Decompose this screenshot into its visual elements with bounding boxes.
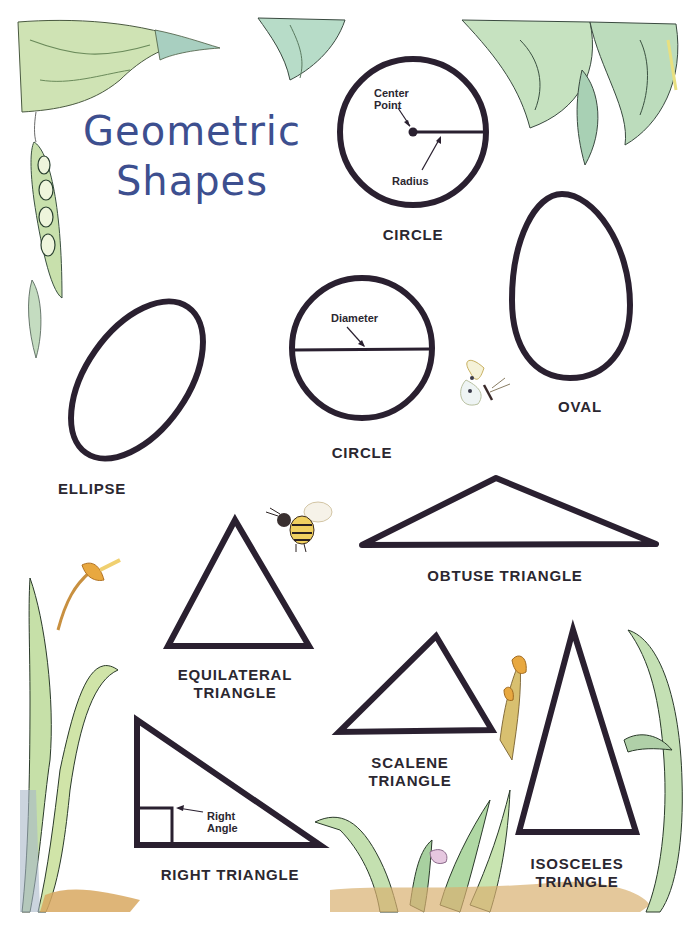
scalene-label-line-1: SCALENE bbox=[355, 754, 465, 772]
oval-label: OVAL bbox=[540, 398, 620, 416]
bee-icon bbox=[266, 502, 332, 552]
center-point-line-2: Point bbox=[374, 99, 409, 111]
equilateral-label-line-1: EQUILATERAL bbox=[160, 666, 310, 684]
diameter-annotation: Diameter bbox=[331, 312, 378, 324]
grass-right-icon bbox=[624, 630, 682, 912]
page-title: Geometric Shapes bbox=[62, 106, 322, 206]
equilateral-triangle-label: EQUILATERAL TRIANGLE bbox=[160, 666, 310, 702]
grass-left-icon bbox=[20, 560, 140, 912]
right-triangle-label: RIGHT TRIANGLE bbox=[150, 866, 310, 884]
title-line-2: Shapes bbox=[62, 156, 322, 206]
right-angle-annotation: Right Angle bbox=[207, 810, 238, 834]
leaves-top-left-icon bbox=[18, 18, 345, 112]
center-point-line-1: Center bbox=[374, 87, 409, 99]
isosceles-triangle-label: ISOSCELES TRIANGLE bbox=[522, 855, 632, 891]
circle-diameter-label: CIRCLE bbox=[312, 444, 412, 462]
center-point-annotation: Center Point bbox=[374, 87, 409, 111]
obtuse-triangle-shape bbox=[362, 478, 656, 545]
obtuse-triangle-label: OBTUSE TRIANGLE bbox=[410, 567, 600, 585]
butterfly-icon bbox=[461, 360, 510, 405]
title-line-1: Geometric bbox=[62, 106, 322, 156]
isosceles-label-line-1: ISOSCELES bbox=[522, 855, 632, 873]
right-angle-line-2: Angle bbox=[207, 822, 238, 834]
ellipse-shape bbox=[44, 278, 230, 482]
pea-pod-icon bbox=[29, 112, 62, 358]
radius-annotation: Radius bbox=[392, 175, 429, 187]
geometric-shapes-poster: Geometric Shapes Center Point Radius CIR… bbox=[0, 0, 696, 936]
circle-radius-label: CIRCLE bbox=[363, 226, 463, 244]
isosceles-triangle-shape bbox=[519, 630, 636, 832]
equilateral-label-line-2: TRIANGLE bbox=[160, 684, 310, 702]
scalene-triangle-label: SCALENE TRIANGLE bbox=[355, 754, 465, 790]
right-angle-line-1: Right bbox=[207, 810, 238, 822]
isosceles-label-line-2: TRIANGLE bbox=[522, 873, 632, 891]
ellipse-label: ELLIPSE bbox=[58, 480, 148, 498]
scalene-label-line-2: TRIANGLE bbox=[355, 772, 465, 790]
oval-shape bbox=[512, 194, 630, 378]
circle-diameter-shape bbox=[292, 278, 432, 418]
equilateral-triangle-shape bbox=[168, 520, 309, 646]
leaves-top-right-icon bbox=[462, 20, 678, 165]
scalene-triangle-shape bbox=[339, 636, 492, 732]
